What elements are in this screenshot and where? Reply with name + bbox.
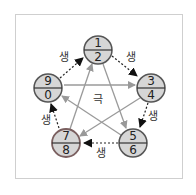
generating-label: 생 [59,51,69,64]
svg-text:9: 9 [44,74,52,88]
node-7-8: 7 8 [52,129,80,157]
svg-text:6: 6 [129,143,137,157]
controlling-label: 극 [93,93,103,106]
generating-label: 생 [148,110,158,123]
generating-label: 생 [96,147,106,160]
svg-text:8: 8 [62,143,70,157]
svg-text:2: 2 [94,50,102,64]
svg-text:7: 7 [62,129,70,143]
generating-label: 생 [41,114,51,127]
five-elements-diagram: 1 2 3 4 5 6 7 8 9 0 생 생 생 생 생 극 [0,0,196,195]
svg-text:4: 4 [147,88,155,102]
node-5-6: 5 6 [119,129,147,157]
generating-label: 생 [126,51,136,64]
svg-text:0: 0 [44,88,52,102]
svg-text:3: 3 [147,74,155,88]
svg-text:1: 1 [94,36,102,50]
node-1-2: 1 2 [84,36,112,64]
node-9-0: 9 0 [34,74,62,102]
svg-text:5: 5 [129,129,137,143]
node-3-4: 3 4 [137,74,165,102]
